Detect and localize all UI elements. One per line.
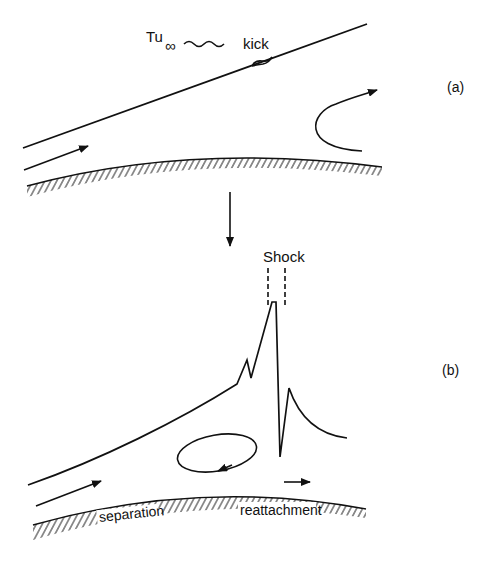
- inflow-arrow-a: [24, 146, 88, 170]
- panel-a-label: (a): [447, 79, 464, 95]
- wall-hatch-a: [27, 158, 382, 197]
- separation-vortex: [174, 428, 259, 477]
- inflow-arrow-b: [36, 481, 101, 506]
- panel-b: [28, 268, 366, 540]
- diagram-canvas: [0, 0, 485, 563]
- tu-infinity-label: Tu∞: [146, 28, 174, 45]
- kick-loop-icon: [252, 57, 272, 66]
- shock-label: Shock: [263, 248, 305, 265]
- panel-b-label: (b): [442, 362, 459, 378]
- boundary-layer-diagram: Tu∞ kick (a) Shock (b) separation reatta…: [0, 0, 485, 563]
- reattachment-label: reattachment: [240, 502, 322, 518]
- boundary-layer-edge-b: [28, 302, 347, 485]
- reverse-flow-arrow-a: [316, 90, 377, 151]
- turbulence-wave-icon: [184, 42, 224, 47]
- tu-symbol: Tu: [146, 28, 163, 45]
- kick-label: kick: [243, 35, 269, 52]
- infinity-subscript: ∞: [165, 37, 176, 54]
- panel-a: [23, 24, 382, 197]
